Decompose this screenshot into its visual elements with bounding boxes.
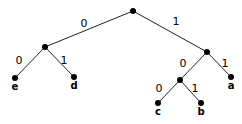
tree-edge-root-n_right	[133, 11, 207, 52]
edge-label: 1	[192, 82, 199, 95]
tree-edge-n_left-d	[45, 47, 74, 77]
tree-nodes	[12, 8, 234, 106]
leaf-label-e: e	[12, 81, 19, 92]
leaf-label-c: c	[155, 106, 161, 117]
tree-edges	[15, 11, 231, 103]
tree-canvas: 01010101 edacb	[0, 0, 242, 124]
edge-label: 1	[61, 54, 68, 67]
tree-edge-root-n_left	[45, 11, 133, 47]
internal-node	[42, 44, 48, 50]
edge-label: 0	[180, 57, 187, 70]
edge-label: 0	[16, 54, 23, 67]
leaf-labels: edacb	[12, 80, 235, 117]
internal-node	[204, 49, 210, 55]
binary-tree-diagram: 01010101 edacb	[0, 0, 242, 124]
edge-label: 0	[81, 17, 88, 30]
edge-labels: 01010101	[16, 15, 229, 95]
internal-node	[130, 8, 136, 14]
edge-label: 1	[173, 15, 180, 28]
internal-node	[177, 77, 183, 83]
edge-label: 1	[222, 57, 229, 70]
leaf-label-a: a	[228, 80, 235, 91]
leaf-label-b: b	[197, 106, 204, 117]
leaf-label-d: d	[70, 80, 77, 91]
edge-label: 0	[156, 82, 163, 95]
